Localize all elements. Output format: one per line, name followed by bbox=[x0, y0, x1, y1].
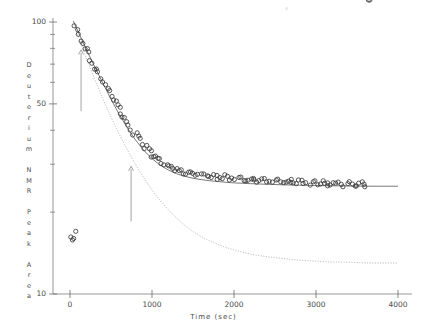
biexponential-fit-line bbox=[73, 21, 398, 186]
data-point-marker bbox=[103, 83, 107, 87]
image-artifact-speck bbox=[285, 7, 288, 10]
data-point-marker bbox=[279, 180, 283, 184]
y-axis-label-char: A bbox=[22, 260, 36, 271]
data-point-marker bbox=[316, 183, 320, 187]
y-axis-label-char: e bbox=[22, 71, 36, 82]
x-tick-label: 2000 bbox=[214, 300, 254, 309]
y-axis-label-char: k bbox=[22, 239, 36, 250]
y-axis-label: Deuterium NMR Peak Area bbox=[22, 60, 36, 302]
y-axis-label-gap bbox=[22, 249, 36, 260]
y-axis-label-char: a bbox=[22, 228, 36, 239]
y-tick-label: 10 bbox=[8, 289, 46, 298]
y-axis-label-char: D bbox=[22, 60, 36, 71]
y-axis-label-char: R bbox=[22, 186, 36, 197]
y-axis-label-char: M bbox=[22, 176, 36, 187]
baseline-cluster-marker bbox=[74, 229, 78, 233]
y-axis-label-char: P bbox=[22, 207, 36, 218]
y-axis-label-gap bbox=[22, 197, 36, 208]
x-tick-label: 0 bbox=[50, 300, 90, 309]
y-axis-label-gap bbox=[22, 155, 36, 166]
data-point-marker bbox=[111, 98, 115, 102]
y-axis-label-char: N bbox=[22, 165, 36, 176]
y-axis-label-char: i bbox=[22, 123, 36, 134]
y-tick-label: 100 bbox=[8, 17, 46, 26]
x-tick-label: 4000 bbox=[378, 300, 418, 309]
data-point-marker bbox=[363, 185, 367, 189]
y-axis-label-char: r bbox=[22, 113, 36, 124]
x-tick-label: 1000 bbox=[132, 300, 172, 309]
deuterium-nmr-decay-chart bbox=[0, 0, 427, 334]
y-tick-label: 50 bbox=[8, 99, 46, 108]
y-axis-label-char: u bbox=[22, 134, 36, 145]
x-tick-label: 3000 bbox=[296, 300, 336, 309]
y-axis-label-char: u bbox=[22, 81, 36, 92]
data-point-marker bbox=[87, 59, 91, 63]
data-point-marker bbox=[304, 181, 308, 185]
y-axis-label-char: e bbox=[22, 218, 36, 229]
data-point-marker bbox=[140, 142, 144, 146]
y-axis-label-char: r bbox=[22, 270, 36, 281]
single-exponential-component-line bbox=[73, 22, 398, 263]
y-axis-label-char: m bbox=[22, 144, 36, 155]
x-axis-label: Time (sec) bbox=[0, 313, 427, 321]
